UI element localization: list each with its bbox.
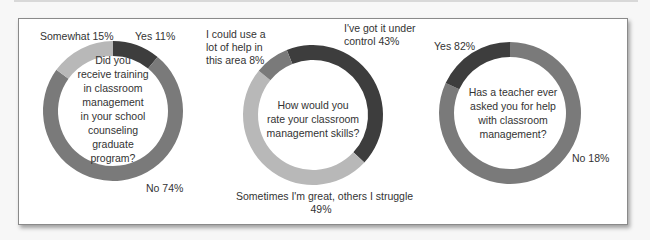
question-line: in classroom xyxy=(68,81,158,95)
question-line: asked you for help xyxy=(458,99,568,113)
label-need-help: I could use alot of help inthis area 8% xyxy=(206,28,266,67)
label-yes: Yes 11% xyxy=(135,30,175,43)
label-sometimes: Sometimes I'm great, others I struggle49… xyxy=(236,190,406,216)
question-line: How would you xyxy=(258,98,368,112)
question-line: counseling xyxy=(68,123,158,137)
label-yes: Yes 82% xyxy=(434,40,475,53)
question-line: Has a teacher ever xyxy=(458,85,568,99)
question-line: with classroom xyxy=(458,113,568,127)
label-line: lot of help in xyxy=(206,41,266,54)
label-somewhat: Somewhat 15% xyxy=(40,30,114,43)
label-line: I've got it under xyxy=(344,22,415,35)
label-line: control 43% xyxy=(344,35,415,48)
chart2-question: How would yourate your classroommanageme… xyxy=(258,98,368,140)
question-line: receive training xyxy=(68,67,158,81)
chart1-question: Did youreceive trainingin classroommanag… xyxy=(68,53,158,165)
question-line: management? xyxy=(458,127,568,141)
chart3-question: Has a teacher everasked you for helpwith… xyxy=(458,85,568,141)
question-line: rate your classroom xyxy=(258,112,368,126)
label-no: No 74% xyxy=(146,182,183,195)
label-line: this area 8% xyxy=(206,54,266,67)
question-line: management skills? xyxy=(258,126,368,140)
question-line: graduate xyxy=(68,137,158,151)
label-under-control: I've got it undercontrol 43% xyxy=(344,22,415,48)
label-line: I could use a xyxy=(206,28,266,41)
question-line: in your school xyxy=(68,109,158,123)
question-line: Did you xyxy=(68,53,158,67)
label-no: No 18% xyxy=(572,152,609,165)
question-line: program? xyxy=(68,151,158,165)
label-line: Sometimes I'm great, others I struggle xyxy=(236,190,406,203)
label-line: 49% xyxy=(236,203,406,216)
question-line: management xyxy=(68,95,158,109)
